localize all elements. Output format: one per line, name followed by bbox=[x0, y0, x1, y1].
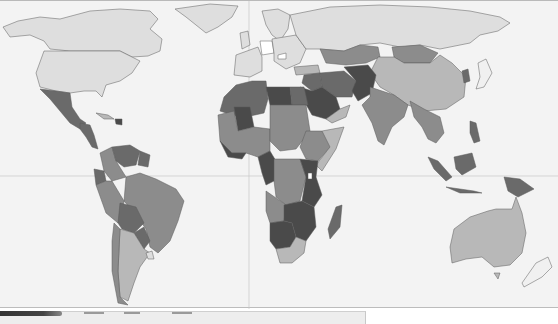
region-greenland bbox=[175, 4, 238, 33]
region-canada bbox=[3, 9, 162, 57]
region-mexico bbox=[40, 89, 86, 129]
region-central-african-coast bbox=[258, 151, 276, 185]
region-western-europe bbox=[234, 47, 262, 77]
region-drc bbox=[274, 159, 306, 205]
region-united-states bbox=[36, 51, 140, 97]
region-japan bbox=[476, 59, 492, 89]
world-map bbox=[0, 0, 558, 308]
cropped-dark-shape bbox=[0, 311, 62, 316]
region-new-zealand bbox=[522, 257, 552, 287]
region-java bbox=[446, 187, 482, 193]
region-tasmania bbox=[494, 273, 500, 279]
cropped-mark bbox=[124, 312, 140, 314]
region-libya bbox=[266, 87, 292, 105]
region-guyana bbox=[138, 151, 150, 167]
cropped-mark bbox=[84, 312, 104, 314]
region-philippines bbox=[470, 121, 480, 143]
region-lake bbox=[308, 173, 312, 179]
region-scandinavia bbox=[262, 9, 290, 41]
region-central-america bbox=[80, 123, 98, 149]
region-russia bbox=[290, 5, 510, 51]
region-germany bbox=[260, 41, 274, 55]
bottom-panel-strip bbox=[0, 309, 558, 324]
region-sumatra bbox=[428, 157, 452, 181]
region-australia bbox=[450, 197, 526, 267]
region-borneo bbox=[454, 153, 476, 175]
choropleth-map-canvas bbox=[0, 1, 558, 309]
region-papua-new-guinea bbox=[504, 177, 534, 197]
region-cuba bbox=[96, 113, 114, 119]
region-uk bbox=[240, 31, 250, 49]
region-haiti bbox=[115, 119, 122, 125]
cropped-mark bbox=[172, 312, 192, 314]
region-madagascar bbox=[328, 205, 342, 239]
